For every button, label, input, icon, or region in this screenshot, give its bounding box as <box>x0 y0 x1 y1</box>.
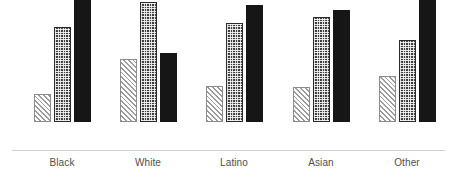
bar-series-3[interactable] <box>74 0 91 122</box>
bar-series-1[interactable] <box>206 86 223 122</box>
bar-series-1[interactable] <box>34 94 51 123</box>
bar-series-1[interactable] <box>379 76 396 122</box>
bar-slot[interactable]: 25.0 <box>120 0 137 122</box>
bar-series-2[interactable] <box>140 2 157 122</box>
category-label-white: White <box>135 157 161 169</box>
bar-series-3[interactable] <box>246 5 263 122</box>
category-label-latino: Latino <box>220 157 248 169</box>
bar-series-2[interactable] <box>226 23 243 122</box>
bar-slot[interactable]: 27.3 <box>160 0 177 122</box>
bar-series-3[interactable] <box>333 10 350 122</box>
bar-slot[interactable]: 39.3 <box>226 0 243 122</box>
bar-series-1[interactable] <box>120 59 137 122</box>
bar-group-latino: 14.3 39.3 46.4 <box>194 0 274 122</box>
category-label-black: Black <box>50 157 75 169</box>
bar-slot[interactable]: 14.3 <box>206 0 223 122</box>
bar-slot[interactable]: 50.8 <box>74 0 91 122</box>
bar-slot[interactable]: 41.7 <box>313 0 330 122</box>
bar-slot[interactable]: 37.9 <box>54 0 71 122</box>
bar-group-black: 11.3 37.9 50.8 <box>22 0 102 122</box>
bar-group-asian: 13.9 41.7 44.4 <box>281 0 361 122</box>
bar-slot[interactable]: 46.4 <box>246 0 263 122</box>
bar-slot[interactable]: 49.0 <box>419 0 436 122</box>
bar-series-1[interactable] <box>293 87 310 122</box>
category-label-other: Other <box>394 157 420 169</box>
bar-slot[interactable]: 44.4 <box>333 0 350 122</box>
grouped-bar-chart: 11.3 37.9 50.8 25.0 47.7 27.3 <box>0 0 451 179</box>
category-axis-line <box>12 150 445 151</box>
bar-series-3[interactable] <box>160 53 177 122</box>
bar-series-3[interactable] <box>419 0 436 122</box>
bar-series-2[interactable] <box>313 17 330 122</box>
bar-slot[interactable]: 32.7 <box>399 0 416 122</box>
category-label-asian: Asian <box>308 157 334 169</box>
bar-group-white: 25.0 47.7 27.3 <box>108 0 188 122</box>
bar-slot[interactable]: 47.7 <box>140 0 157 122</box>
bar-slot[interactable]: 13.9 <box>293 0 310 122</box>
bar-slot[interactable]: 11.3 <box>34 0 51 122</box>
bar-slot[interactable]: 18.4 <box>379 0 396 122</box>
plot-area: 11.3 37.9 50.8 25.0 47.7 27.3 <box>0 0 451 151</box>
bar-group-other: 18.4 32.7 49.0 <box>367 0 447 122</box>
bar-series-2[interactable] <box>399 40 416 122</box>
bar-series-2[interactable] <box>54 27 71 123</box>
